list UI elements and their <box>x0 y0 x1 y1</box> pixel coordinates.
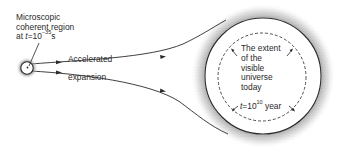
origin-label-eq: =10 <box>28 31 42 41</box>
expansion-label: expansion <box>68 73 106 83</box>
origin-label-unit: s <box>51 31 55 41</box>
inflation-diagram: Microscopic coherent region at t=10−35s … <box>0 0 346 152</box>
origin-label-at: at <box>16 31 25 41</box>
universe-label-line5: today <box>241 83 281 93</box>
arrow-lower-left-icon <box>56 71 62 75</box>
origin-label: Microscopic coherent region at t=10−35s <box>16 13 74 42</box>
universe-label: The extent of the visible universe today <box>241 44 281 93</box>
origin-dot <box>27 67 29 69</box>
arrow-upper-right-icon <box>160 55 166 59</box>
origin-label-line3: at t=10−35s <box>16 32 74 42</box>
accelerated-label: Accelerated <box>68 55 112 65</box>
time-label-exp: 10 <box>257 99 263 105</box>
time-label-eq: =10 <box>242 101 256 111</box>
origin-label-exp: −35 <box>42 29 51 35</box>
time-label-unit: year <box>263 101 282 111</box>
time-label: t=1010 year <box>240 102 281 112</box>
arrow-lower-right-icon <box>160 89 166 93</box>
arrow-upper-left-icon <box>56 60 62 64</box>
